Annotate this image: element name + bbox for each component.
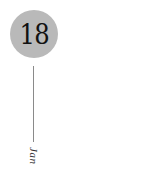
date-timeline-marker: 18 Jan bbox=[0, 0, 144, 177]
day-number: 18 bbox=[19, 21, 48, 48]
month-label: Jan bbox=[28, 147, 40, 164]
day-badge: 18 bbox=[10, 10, 58, 58]
timeline-connector bbox=[33, 66, 34, 142]
